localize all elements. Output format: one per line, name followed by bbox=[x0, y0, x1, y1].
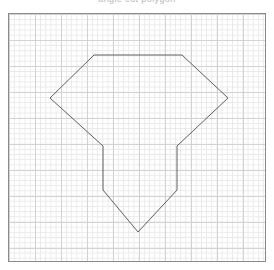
polygon-layer bbox=[0, 0, 274, 270]
diamond-shield-polygon bbox=[50, 55, 228, 232]
canvas-stage: angle cut polygon bbox=[0, 0, 274, 270]
